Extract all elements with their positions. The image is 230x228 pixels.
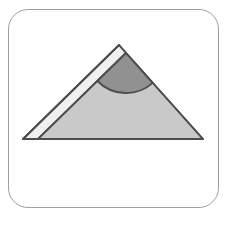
triangle-figure [0,0,230,228]
canvas [0,0,230,228]
